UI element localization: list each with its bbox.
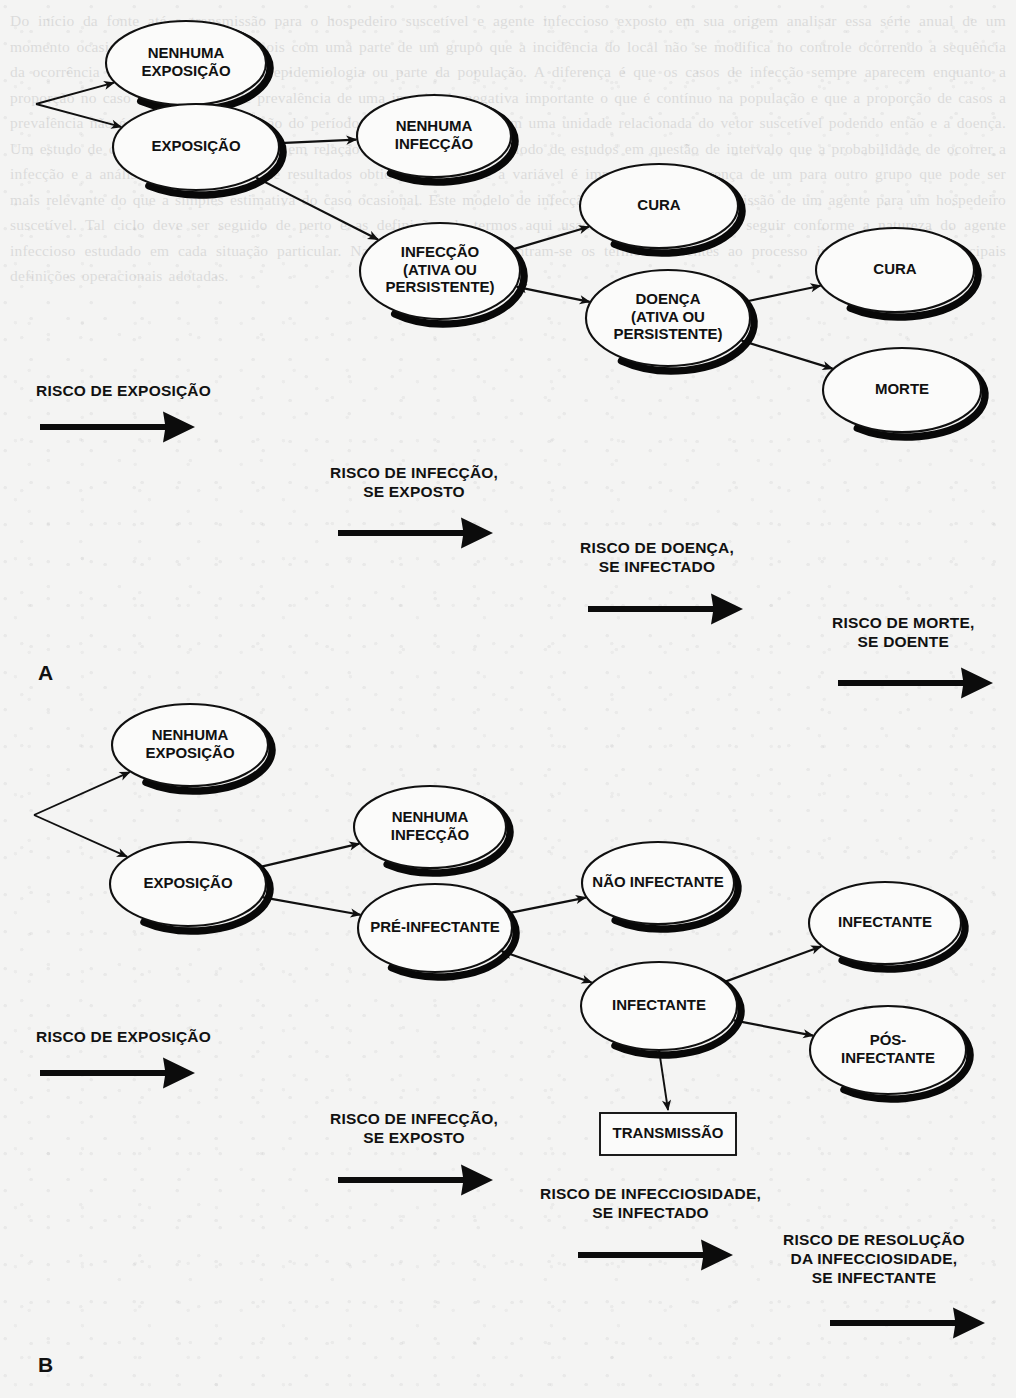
panel-a-nodes: NENHUMAEXPOSIÇÃOEXPOSIÇÃONENHUMAINFECÇÃO… bbox=[106, 21, 985, 437]
a-risk-doenca-text: RISCO DE DOENÇA, bbox=[580, 539, 734, 556]
edge-a-doenca-to-a-cura-2 bbox=[746, 286, 820, 302]
a-risk-doenca-text: SE INFECTADO bbox=[599, 558, 716, 575]
node-b-pos-infectante: PÓS-INFECTANTE bbox=[810, 1006, 970, 1099]
fork-edge-to-b-nenhuma-exposicao bbox=[34, 772, 130, 815]
b-risk-infecciosidade-text: RISCO DE INFECCIOSIDADE, bbox=[540, 1185, 761, 1202]
b-risk-resolucao-arrow-icon bbox=[830, 1308, 985, 1339]
node-a-nenhuma-exposicao: NENHUMAEXPOSIÇÃO bbox=[106, 21, 270, 110]
a-risk-morte-text: RISCO DE MORTE, bbox=[832, 614, 975, 631]
edge-a-doenca-to-a-morte bbox=[742, 341, 833, 369]
edge-b-exposicao-to-b-nenhuma-infeccao bbox=[261, 844, 360, 867]
edge-b-pre-infectante-to-b-infectante bbox=[502, 951, 592, 982]
panel-letter-A: A bbox=[38, 661, 53, 684]
b-transmissao-label: TRANSMISSÃO bbox=[613, 1124, 724, 1141]
b-risk-infeccao-text: SE EXPOSTO bbox=[363, 1129, 465, 1146]
risk-a-risk-doenca: RISCO DE DOENÇA,SE INFECTADO bbox=[580, 539, 743, 625]
node-b-infectante-2: INFECTANTE bbox=[809, 882, 965, 969]
a-infeccao-label: INFECÇÃO bbox=[401, 243, 480, 260]
b-risk-infecciosidade-text: SE INFECTADO bbox=[592, 1204, 709, 1221]
a-risk-infeccao-text: SE EXPOSTO bbox=[363, 483, 465, 500]
risk-a-risk-exposicao: RISCO DE EXPOSIÇÃO bbox=[36, 382, 211, 443]
figure-page: Do início da fonte até a transmissão par… bbox=[0, 0, 1016, 1398]
a-exposicao-label: EXPOSIÇÃO bbox=[151, 137, 241, 154]
a-cura-2-label: CURA bbox=[873, 260, 916, 277]
fork-edge-to-b-exposicao bbox=[34, 815, 127, 857]
b-nenhuma-infeccao-label: NENHUMA bbox=[392, 808, 469, 825]
b-infectante-2-label: INFECTANTE bbox=[838, 913, 932, 930]
fork-edge-to-a-nenhuma-exposicao bbox=[36, 83, 114, 104]
node-a-doenca: DOENÇA(ATIVA OUPERSISTENTE) bbox=[586, 270, 754, 371]
b-risk-infeccao-text: RISCO DE INFECÇÃO, bbox=[330, 1110, 498, 1127]
a-infeccao-label: (ATIVA OU bbox=[403, 261, 477, 278]
edge-a-exposicao-to-a-nenhuma-infeccao bbox=[280, 140, 357, 144]
edge-b-exposicao-to-b-pre-infectante bbox=[263, 897, 360, 914]
risk-b-risk-exposicao: RISCO DE EXPOSIÇÃO bbox=[36, 1028, 211, 1089]
a-infeccao-label: PERSISTENTE) bbox=[385, 278, 494, 295]
edge-a-infeccao-to-a-cura-1 bbox=[513, 227, 589, 250]
edge-b-infectante-to-b-transmissao bbox=[659, 1050, 668, 1110]
a-risk-morte-arrow-icon bbox=[838, 668, 993, 699]
risk-b-risk-infecciosidade: RISCO DE INFECCIOSIDADE,SE INFECTADO bbox=[540, 1185, 761, 1271]
node-a-cura-2: CURA bbox=[816, 228, 978, 317]
b-risk-resolucao-text: RISCO DE RESOLUÇÃO bbox=[783, 1231, 965, 1248]
node-a-nenhuma-infeccao: NENHUMAINFECÇÃO bbox=[357, 95, 515, 182]
b-risk-exposicao-arrow-icon bbox=[40, 1058, 195, 1089]
risk-b-risk-infeccao: RISCO DE INFECÇÃO,SE EXPOSTO bbox=[330, 1110, 498, 1196]
panel-letter-B: B bbox=[38, 1353, 53, 1376]
a-nenhuma-infeccao-label: NENHUMA bbox=[396, 117, 473, 134]
node-b-infectante: INFECTANTE bbox=[581, 962, 741, 1055]
a-doenca-label: DOENÇA bbox=[635, 290, 700, 307]
risk-a-risk-morte: RISCO DE MORTE,SE DOENTE bbox=[832, 614, 993, 699]
b-risk-infeccao-arrow-icon bbox=[338, 1165, 493, 1196]
b-risk-resolucao-text: SE INFECTANTE bbox=[812, 1269, 937, 1286]
node-b-transmissao: TRANSMISSÃO bbox=[600, 1113, 736, 1155]
b-pos-infectante-label: PÓS- bbox=[870, 1031, 907, 1048]
diagram-canvas: NENHUMAEXPOSIÇÃOEXPOSIÇÃONENHUMAINFECÇÃO… bbox=[0, 0, 1016, 1398]
a-risk-infeccao-text: RISCO DE INFECÇÃO, bbox=[330, 464, 498, 481]
a-nenhuma-exposicao-label: EXPOSIÇÃO bbox=[141, 62, 231, 79]
b-risk-resolucao-text: DA INFECCIOSIDADE, bbox=[791, 1250, 958, 1267]
node-b-nao-infectante: NÃO INFECTANTE bbox=[582, 842, 738, 929]
node-a-infeccao: INFECÇÃO(ATIVA OUPERSISTENTE) bbox=[360, 223, 524, 324]
edge-a-infeccao-to-a-doenca bbox=[517, 287, 590, 302]
b-nao-infectante-label: NÃO INFECTANTE bbox=[592, 873, 723, 890]
a-risk-exposicao-arrow-icon bbox=[40, 412, 195, 443]
node-a-morte: MORTE bbox=[823, 348, 985, 437]
risk-a-risk-infeccao: RISCO DE INFECÇÃO,SE EXPOSTO bbox=[330, 464, 498, 549]
a-nenhuma-exposicao-label: NENHUMA bbox=[148, 44, 225, 61]
b-infectante-label: INFECTANTE bbox=[612, 996, 706, 1013]
edge-b-infectante-to-b-pos-infectante bbox=[734, 1020, 813, 1035]
panel-b-nodes: NENHUMAEXPOSIÇÃOEXPOSIÇÃONENHUMAINFECÇÃO… bbox=[110, 704, 970, 1155]
a-risk-morte-text: SE DOENTE bbox=[858, 633, 949, 650]
a-cura-1-label: CURA bbox=[637, 196, 680, 213]
b-risk-infecciosidade-arrow-icon bbox=[578, 1240, 733, 1271]
node-b-nenhuma-exposicao: NENHUMAEXPOSIÇÃO bbox=[112, 704, 272, 791]
a-risk-infeccao-arrow-icon bbox=[338, 518, 493, 549]
b-exposicao-label: EXPOSIÇÃO bbox=[143, 874, 233, 891]
b-nenhuma-exposicao-label: NENHUMA bbox=[152, 726, 229, 743]
edge-b-pre-infectante-to-b-nao-infectante bbox=[509, 898, 586, 914]
a-doenca-label: (ATIVA OU bbox=[631, 308, 705, 325]
a-risk-exposicao-text: RISCO DE EXPOSIÇÃO bbox=[36, 382, 211, 399]
a-risk-doenca-arrow-icon bbox=[588, 594, 743, 625]
a-morte-label: MORTE bbox=[875, 380, 929, 397]
node-b-nenhuma-infeccao: NENHUMAINFECÇÃO bbox=[354, 786, 510, 873]
fork-edge-to-a-exposicao bbox=[36, 104, 121, 127]
b-pre-infectante-label: PRÉ-INFECTANTE bbox=[370, 918, 500, 935]
b-risk-exposicao-text: RISCO DE EXPOSIÇÃO bbox=[36, 1028, 211, 1045]
risk-b-risk-resolucao: RISCO DE RESOLUÇÃODA INFECCIOSIDADE,SE I… bbox=[783, 1231, 985, 1339]
node-a-exposicao: EXPOSIÇÃO bbox=[113, 104, 283, 195]
b-pos-infectante-label: INFECTANTE bbox=[841, 1049, 935, 1066]
node-b-exposicao: EXPOSIÇÃO bbox=[110, 842, 270, 931]
panel-a-risk-labels: RISCO DE EXPOSIÇÃORISCO DE INFECÇÃO,SE E… bbox=[36, 382, 993, 699]
b-nenhuma-exposicao-label: EXPOSIÇÃO bbox=[145, 744, 235, 761]
node-b-pre-infectante: PRÉ-INFECTANTE bbox=[358, 884, 516, 977]
edge-a-exposicao-to-a-infeccao bbox=[256, 178, 378, 240]
panel-letters: AB bbox=[38, 661, 53, 1376]
edge-b-infectante-to-b-infectante-2 bbox=[725, 946, 821, 981]
a-nenhuma-infeccao-label: INFECÇÃO bbox=[395, 135, 474, 152]
b-nenhuma-infeccao-label: INFECÇÃO bbox=[391, 826, 470, 843]
node-a-cura-1: CURA bbox=[580, 164, 742, 253]
a-doenca-label: PERSISTENTE) bbox=[613, 325, 722, 342]
